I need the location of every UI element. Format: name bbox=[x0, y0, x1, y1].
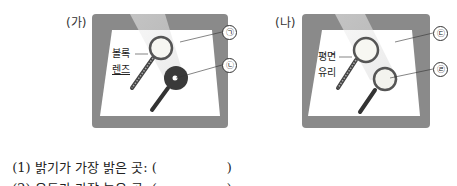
convex-lens-label-line1: 볼록 bbox=[112, 46, 130, 62]
panel-label-ga: (가) bbox=[66, 13, 86, 30]
marker-digeut: ㉢ bbox=[433, 26, 448, 41]
question-2-text: (2) 온도가 가장 높은 곳: ( bbox=[12, 181, 157, 186]
convex-lens-label: 볼록 렌즈 bbox=[112, 46, 130, 78]
convex-lens-label-line2: 렌즈 bbox=[112, 62, 130, 78]
question-2: (2) 온도가 가장 높은 곳: () bbox=[4, 163, 232, 186]
panel-label-na: (나) bbox=[275, 13, 295, 30]
question-2-close: ) bbox=[227, 181, 232, 186]
flat-glass-label-line1: 평면 bbox=[318, 49, 336, 65]
marker-nieun: ㉡ bbox=[222, 58, 237, 73]
flat-glass-label-line2: 유리 bbox=[318, 65, 336, 81]
marker-rieul: ㉣ bbox=[433, 62, 448, 77]
marker-giyeok: ㉠ bbox=[222, 25, 237, 40]
flat-glass-label: 평면 유리 bbox=[318, 49, 336, 81]
